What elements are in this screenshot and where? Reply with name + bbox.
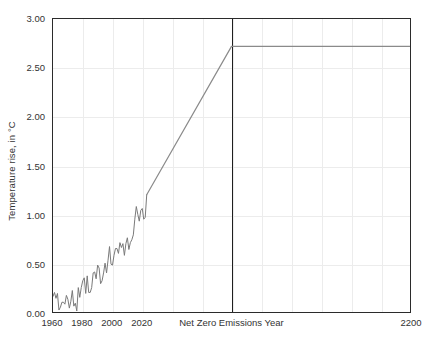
net-zero-axis-label: Net Zero Emissions Year — [179, 317, 284, 328]
y-tick-label: 1.50 — [27, 160, 46, 171]
x-tick-label: 1980 — [71, 317, 92, 328]
y-tick-label: 2.50 — [27, 62, 46, 73]
y-axis-tick-labels: 0.000.501.001.502.002.503.00 — [0, 0, 50, 342]
data-series-layer — [53, 19, 410, 312]
x-tick-label: 2200 — [400, 317, 421, 328]
temperature-rise-chart: Temperature rise, in °C 0.000.501.001.50… — [0, 0, 427, 342]
y-tick-label: 1.00 — [27, 209, 46, 220]
y-tick-label: 0.00 — [27, 308, 46, 319]
observed-temperature-line — [53, 195, 147, 311]
x-tick-label: 2000 — [101, 317, 122, 328]
projected-temperature-line — [147, 46, 410, 194]
x-tick-label: 2020 — [131, 317, 152, 328]
y-tick-label: 3.00 — [27, 13, 46, 24]
y-tick-label: 2.00 — [27, 111, 46, 122]
plot-area — [52, 18, 411, 313]
y-tick-label: 0.50 — [27, 258, 46, 269]
